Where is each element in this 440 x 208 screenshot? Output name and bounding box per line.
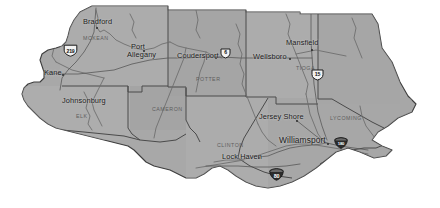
- county-label-elk: ELK: [76, 113, 88, 119]
- city-label-mansfield: Mansfield: [286, 39, 319, 47]
- route-shield-us-15-number: 15: [311, 67, 324, 80]
- city-label-wellsboro: Wellsboro: [253, 53, 287, 61]
- county-label-lycoming: LYCOMING: [330, 115, 362, 121]
- route-shield-us-219-number: 219: [63, 43, 78, 57]
- city-label-bradford: Bradford: [83, 18, 112, 26]
- county-label-potter: POTTER: [196, 76, 220, 82]
- route-shield-us-219[interactable]: 219: [63, 43, 78, 56]
- city-label-williamsport: Williamsport: [279, 136, 326, 144]
- route-shield-i-80[interactable]: 80: [269, 167, 284, 180]
- city-label-johnsonburg: Johnsonburg: [62, 97, 106, 105]
- route-shield-us-15[interactable]: 15: [311, 67, 324, 79]
- city-label-allegany: Allegany: [127, 51, 156, 59]
- route-shield-i-180-number: 180: [334, 135, 348, 149]
- city-label-kane: Kane: [44, 69, 62, 77]
- county-label-mckean: MCKEAN: [83, 35, 109, 41]
- route-shield-i-180[interactable]: 180: [334, 135, 348, 147]
- county-label-clinton: CLINTON: [217, 142, 244, 148]
- county-label-cameron: CAMERON: [152, 106, 183, 112]
- city-label-lock-haven: Lock Haven: [222, 153, 262, 161]
- route-shield-us-6[interactable]: 6: [220, 45, 231, 56]
- route-shield-i-80-number: 80: [269, 167, 284, 182]
- map-canvas: MCKEAN POTTER TIOGA ELK CAMERON CLINTON …: [0, 0, 440, 208]
- city-label-jersey-shore: Jersey Shore: [259, 113, 304, 121]
- city-label-coudersport: Coudersport: [177, 52, 219, 60]
- route-shield-us-6-number: 6: [220, 45, 231, 57]
